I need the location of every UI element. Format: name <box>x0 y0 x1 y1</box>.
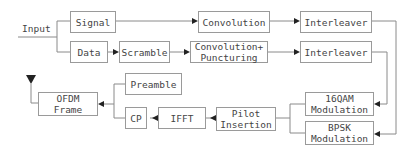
scramble-block: Scramble <box>119 41 170 63</box>
scramble-label: Scramble <box>122 47 168 58</box>
cp-label: CP <box>130 113 141 124</box>
pilot-line1: Pilot <box>232 108 261 119</box>
data-block: Data <box>70 41 108 63</box>
conv-punct-line1: Convolution+ <box>195 41 264 52</box>
pilot-line2: Insertion <box>220 119 271 130</box>
convolution-block: Convolution <box>198 11 270 33</box>
ifft-block: IFFT <box>158 107 206 129</box>
qam-line2: Modulation <box>311 104 368 115</box>
bpsk-line1: BPSK <box>328 122 351 133</box>
cp-block: CP <box>125 107 147 129</box>
ofdm-frame-block: OFDM Frame <box>38 92 98 116</box>
preamble-label: Preamble <box>131 79 177 90</box>
bpsk-line2: Modulation <box>311 133 368 144</box>
interleaver-bottom-block: Interleaver <box>300 41 372 63</box>
ofdm-transmitter-diagram: Input Signal Data Scramble Convolution C… <box>0 0 418 153</box>
preamble-block: Preamble <box>125 73 182 95</box>
interleaver-top-block: Interleaver <box>300 11 372 33</box>
signal-label: Signal <box>76 17 110 28</box>
convolution-puncturing-block: Convolution+ Puncturing <box>190 41 268 63</box>
data-label: Data <box>78 47 101 58</box>
ofdm-line2: Frame <box>54 104 83 115</box>
ofdm-line1: OFDM <box>57 93 80 104</box>
qam-line1: 16QAM <box>325 93 354 104</box>
interleaver-top-label: Interleaver <box>305 17 368 28</box>
interleaver-bottom-label: Interleaver <box>305 47 368 58</box>
ifft-label: IFFT <box>171 113 194 124</box>
bpsk-modulation-block: BPSK Modulation <box>305 121 374 145</box>
signal-block: Signal <box>70 11 116 33</box>
convolution-label: Convolution <box>203 17 266 28</box>
conv-punct-line2: Puncturing <box>200 52 257 63</box>
qam16-modulation-block: 16QAM Modulation <box>305 92 374 116</box>
pilot-insertion-block: Pilot Insertion <box>216 107 276 131</box>
input-label: Input <box>22 23 51 34</box>
